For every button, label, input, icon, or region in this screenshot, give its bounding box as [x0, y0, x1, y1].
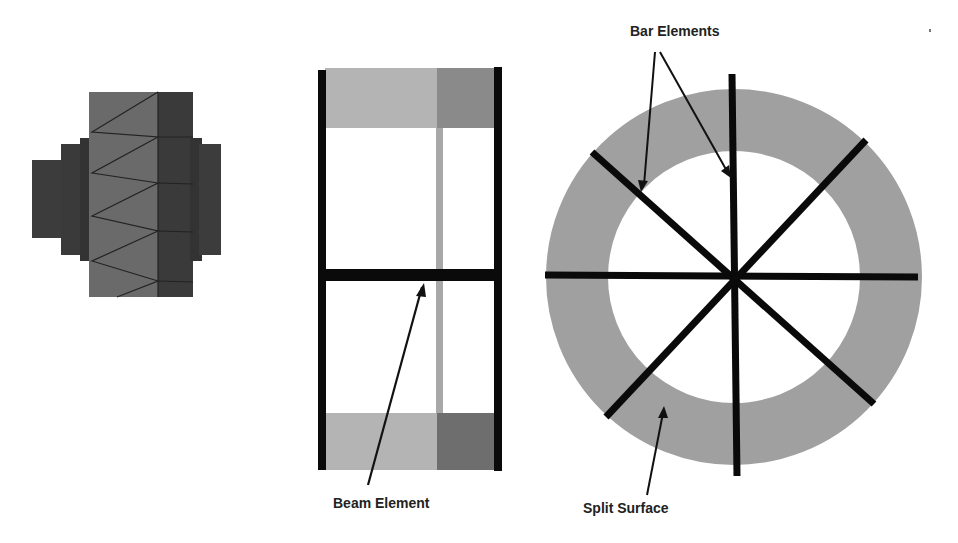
bar-elements-label: Bar Elements: [630, 23, 719, 39]
solid-mesh-model: [32, 92, 221, 297]
split-surface-label: Split Surface: [583, 500, 669, 516]
ring-with-bars: [545, 29, 931, 495]
beam-element-label: Beam Element: [333, 495, 429, 511]
diagram-canvas: [0, 0, 958, 543]
beam-model: [318, 67, 502, 485]
